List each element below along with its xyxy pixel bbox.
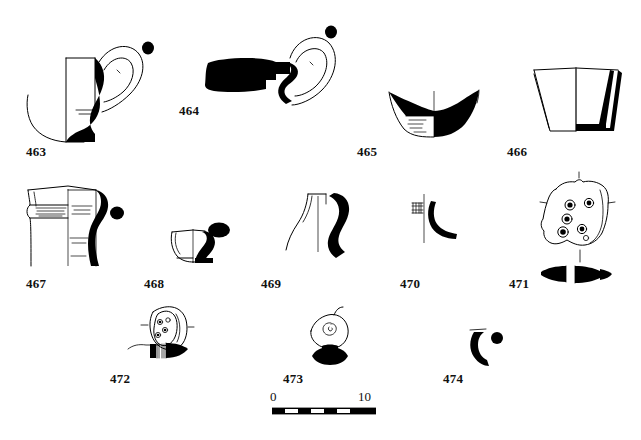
- figure-469-drawing: [286, 193, 349, 258]
- figure-472-drawing: [128, 307, 194, 358]
- figure-label-472: 472: [110, 372, 130, 385]
- figure-label-471: 471: [509, 277, 529, 290]
- plate-drawing: [0, 0, 641, 440]
- figure-label-464: 464: [179, 104, 199, 117]
- figure-label-470: 470: [400, 277, 420, 290]
- figure-label-468: 468: [144, 277, 164, 290]
- figure-473-drawing: [311, 307, 348, 365]
- figure-467-drawing: [27, 186, 124, 266]
- figure-label-467: 467: [26, 277, 46, 290]
- figure-471-drawing: [540, 172, 615, 283]
- figure-470-drawing: [412, 194, 457, 243]
- scale-start-label: 0: [270, 390, 277, 403]
- figure-label-473: 473: [283, 372, 303, 385]
- figure-474-drawing: [470, 329, 503, 366]
- figure-466-drawing: [534, 68, 622, 131]
- figure-label-466: 466: [507, 145, 527, 158]
- figure-468-drawing: [171, 223, 230, 264]
- figure-label-469: 469: [261, 277, 281, 290]
- figure-label-465: 465: [357, 145, 377, 158]
- illustration-plate: 463 464 465 466 467 468 469 470 471 472 …: [0, 0, 641, 440]
- figure-465-drawing: [389, 90, 479, 137]
- figure-463-drawing: [27, 42, 154, 143]
- figure-label-474: 474: [443, 372, 463, 385]
- scale-bar-drawing: [272, 407, 376, 415]
- figure-label-463: 463: [26, 145, 46, 158]
- figure-464-drawing: [205, 26, 337, 106]
- scale-end-label: 10: [358, 390, 371, 403]
- perforation-holes: [558, 198, 594, 240]
